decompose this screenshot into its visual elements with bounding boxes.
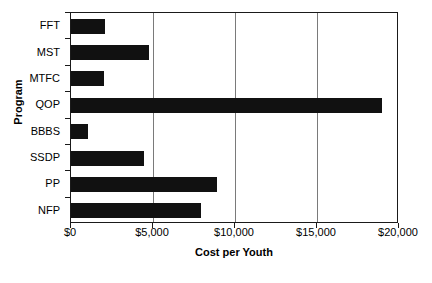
bar-row (71, 71, 397, 86)
bar-row (71, 177, 397, 192)
bar-chart-figure: Program FFTMSTMTFCQOPBBBSSSDPPPNFP $0$5,… (0, 0, 432, 283)
bar-row (71, 45, 397, 60)
bar-mst (71, 45, 149, 60)
bar-row (71, 124, 397, 139)
bar-nfp (71, 203, 201, 218)
y-tick-label-pp: PP (45, 177, 60, 189)
bar-bbbs (71, 124, 88, 139)
x-tick-mark (316, 223, 317, 228)
y-tick-label-bbbs: BBBS (31, 125, 60, 137)
x-tick-mark (234, 223, 235, 228)
y-tick-label-nfp: NFP (38, 204, 60, 216)
bar-fft (71, 19, 105, 34)
y-tick-label-mst: MST (37, 46, 60, 58)
y-tick-label-ssdp: SSDP (30, 151, 60, 163)
x-axis-tick-labels: $0$5,000$10,000$15,000$20,000 (0, 226, 432, 242)
y-tick-label-qop: QOP (36, 98, 60, 110)
y-axis-tick-labels: FFTMSTMTFCQOPBBBSSSDPPPNFP (0, 12, 66, 223)
y-tick-label-mtfc: MTFC (29, 72, 60, 84)
bars-layer (71, 13, 397, 222)
bar-ssdp (71, 151, 144, 166)
bar-row (71, 98, 397, 113)
plot-area (70, 12, 398, 223)
bar-pp (71, 177, 217, 192)
bar-row (71, 19, 397, 34)
bar-qop (71, 98, 382, 113)
bar-row (71, 151, 397, 166)
x-tick-mark (398, 223, 399, 228)
x-axis-title: Cost per Youth (70, 246, 398, 258)
bar-mtfc (71, 71, 104, 86)
bar-row (71, 203, 397, 218)
figure-caption (6, 272, 426, 283)
x-tick-mark (70, 223, 71, 228)
x-tick-mark (152, 223, 153, 228)
y-tick-label-fft: FFT (40, 19, 60, 31)
